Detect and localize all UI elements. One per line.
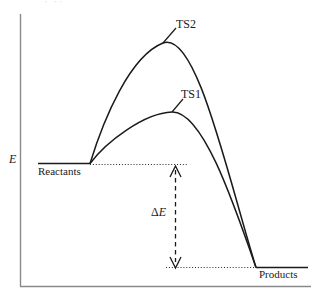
products-label: Products [259, 269, 298, 280]
delta-energy-e-symbol: E [159, 205, 166, 219]
reactants-label: Reactants [38, 166, 81, 177]
ts1-pathway-curve [90, 112, 256, 268]
ts1-label: TS1 [181, 88, 201, 100]
y-axis-label: E [9, 153, 16, 165]
energy-levels [38, 164, 308, 268]
diagram-canvas [0, 0, 320, 296]
ts2-pathway-curve [90, 42, 256, 267]
guide-lines [90, 165, 258, 268]
delta-energy-label: ΔE [151, 206, 166, 218]
reaction-energy-diagram: · ·· [0, 0, 320, 296]
axes [20, 14, 311, 287]
ts2-leader-line [163, 28, 176, 43]
delta-e-arrow [170, 166, 181, 268]
pathway-curves [90, 42, 256, 267]
delta-symbol: Δ [151, 205, 159, 219]
ts2-label: TS2 [176, 18, 196, 30]
label-leader-lines [163, 28, 183, 112]
